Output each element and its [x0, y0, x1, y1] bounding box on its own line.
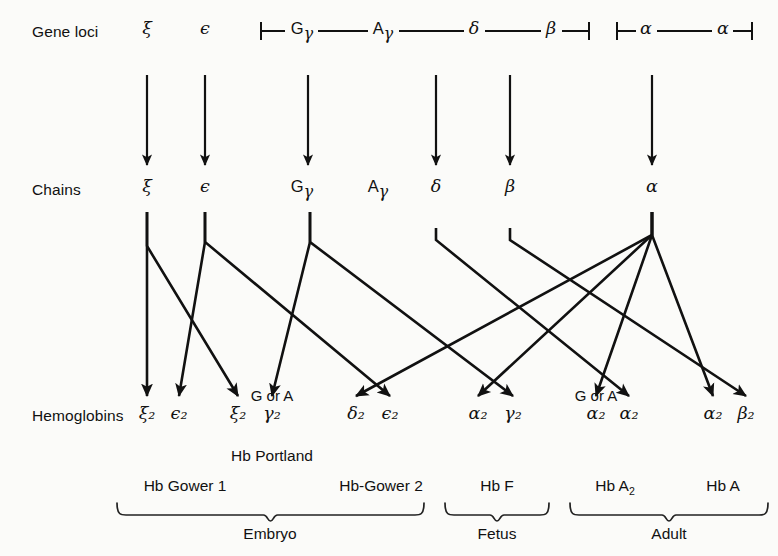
g-gamma-locus-prefix: G	[291, 19, 304, 37]
stage-adult-brace	[570, 503, 768, 521]
zeta-locus: ξ	[142, 20, 152, 38]
row-label-chains: Chains	[32, 182, 81, 198]
hb-subunit-zeta2-b: ξ₂	[230, 405, 247, 423]
path-alpha-to-alpha2-hba	[652, 212, 713, 396]
hb-a: Hb A	[706, 478, 740, 494]
hb-subunit-gamma2-a: γ₂	[263, 405, 280, 423]
path-beta-to-beta2	[510, 228, 746, 396]
hb-a2-subscript: 2	[629, 485, 635, 497]
hb-subunit-alpha2-d: α₂	[704, 405, 723, 423]
stage-embryo-label: Embryo	[243, 526, 296, 542]
hb-subunit-alpha2-b: α₂	[587, 405, 606, 423]
a-gamma-chain-prefix: A	[368, 177, 379, 195]
path-alpha-to-alpha2-hbf	[478, 212, 652, 396]
a-gamma-locus-symbol: γ	[384, 24, 393, 43]
hb-gower-1: Hb Gower 1	[144, 478, 227, 494]
hb-subunit-alpha2-c: α₂	[620, 405, 639, 423]
delta-chain: δ	[431, 178, 442, 196]
g-gamma-locus-symbol: γ	[304, 24, 313, 43]
path-ggamma-to-gamma2-portland	[272, 212, 310, 396]
stage-fetus-label: Fetus	[478, 526, 517, 542]
a-gamma-locus-prefix: A	[373, 19, 384, 37]
hb-subunit-delta2: δ₂	[347, 405, 365, 423]
hemoglobin-diagram: Gene loci Chains Hemoglobins ξϵGγAγδβαα …	[0, 0, 778, 556]
g-gamma-locus: Gγ	[291, 20, 313, 41]
g-or-a-note-left: G or A	[251, 388, 294, 403]
alpha-locus-1: α	[640, 20, 652, 38]
diagram-vector-layer	[0, 0, 778, 556]
path-ggamma-to-gamma2-hbf	[310, 212, 513, 396]
delta-locus: δ	[469, 20, 480, 38]
row-label-gene-loci: Gene loci	[32, 24, 98, 40]
stage-fetus-brace	[445, 503, 549, 521]
hb-subunit-alpha2-a: α₂	[469, 405, 488, 423]
hb-subunit-epsilon2-b: ϵ₂	[382, 405, 399, 423]
hb-subunit-zeta2-a: ξ₂	[139, 405, 156, 423]
zeta-chain: ξ	[142, 178, 152, 196]
path-epsilon-to-epsilon2-gower1	[179, 212, 205, 396]
g-gamma-chain-prefix: G	[291, 177, 304, 195]
beta-locus: β	[546, 20, 556, 38]
alpha-chain: α	[646, 178, 658, 196]
g-gamma-chain-symbol: γ	[304, 182, 313, 201]
row-label-hemoglobins: Hemoglobins	[32, 408, 124, 424]
path-alpha-to-epsilon2-gower2	[356, 212, 652, 396]
path-alpha-to-alpha2-hba2	[596, 212, 652, 396]
path-zeta-to-zeta2-portland	[147, 212, 238, 396]
hb-subunit-gamma2-b: γ₂	[504, 405, 521, 423]
hb-f: Hb F	[480, 478, 514, 494]
hb-gower-2: Hb-Gower 2	[339, 478, 423, 494]
a-gamma-chain-symbol: γ	[379, 182, 388, 201]
locus-bracket-group	[261, 22, 752, 40]
a-gamma-chain: Aγ	[368, 178, 388, 199]
path-delta-to-delta2	[436, 228, 629, 396]
stage-adult-label: Adult	[651, 526, 686, 542]
hb-a2: Hb A2	[595, 478, 634, 497]
alpha-locus-2: α	[717, 20, 729, 38]
g-or-a-note-right: G or A	[575, 388, 618, 403]
hb-subunit-beta2: β₂	[737, 405, 754, 423]
epsilon-locus: ϵ	[200, 20, 210, 38]
path-epsilon-to-epsilon2-gower2	[205, 212, 390, 396]
chain-assembly-path-group	[147, 212, 746, 396]
epsilon-chain: ϵ	[200, 178, 210, 196]
stage-embryo-brace	[117, 503, 424, 521]
g-gamma-chain: Gγ	[291, 178, 313, 199]
a-gamma-locus: Aγ	[373, 20, 393, 41]
transcription-arrow-group	[147, 75, 652, 165]
hb-portland: Hb Portland	[231, 448, 313, 464]
beta-chain: β	[505, 178, 515, 196]
stage-brace-group	[117, 503, 768, 521]
hb-subunit-epsilon2-a: ϵ₂	[171, 405, 188, 423]
